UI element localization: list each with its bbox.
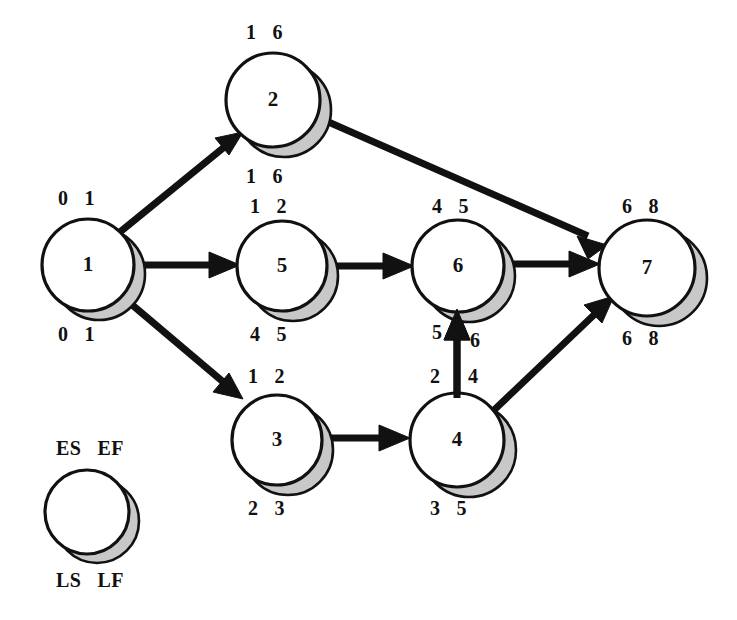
node-6-lf: 6 (470, 330, 481, 350)
node-2-ef: 6 (273, 22, 284, 42)
node-3-late-times: 23 (248, 498, 285, 518)
node-4-ls: 3 (430, 498, 441, 518)
node-5-lf: 5 (277, 324, 288, 344)
node-1-ef: 1 (85, 188, 96, 208)
legend-late-labels: LSLF (56, 570, 124, 590)
node-2[interactable]: 2 (226, 53, 331, 157)
node-5-ls: 4 (250, 324, 261, 344)
node-7[interactable]: 7 (599, 220, 707, 326)
node-7-lf: 8 (649, 328, 660, 348)
legend-es-label: ES (56, 438, 81, 458)
node-1-es: 0 (58, 188, 69, 208)
node-7-ls: 6 (622, 328, 633, 348)
node-5-early-times: 12 (250, 196, 287, 216)
node-4-es: 2 (430, 366, 441, 386)
node-2-lf: 6 (273, 166, 284, 186)
node-5-es: 1 (250, 196, 261, 216)
edge-group (120, 117, 614, 451)
node-1-late-times: 01 (58, 324, 95, 344)
node-5-ef: 2 (277, 196, 288, 216)
node-4-lf: 5 (457, 498, 468, 518)
node-6-ls: 5 (432, 322, 443, 342)
node-2-label: 2 (268, 87, 279, 111)
legend-lf-label: LF (97, 570, 124, 590)
node-2-early-times: 16 (246, 22, 283, 42)
node-4-ef: 4 (468, 366, 479, 386)
node-1-early-times: 01 (58, 188, 95, 208)
edge-4-7 (492, 296, 614, 412)
legend-early-labels: ESEF (56, 438, 124, 458)
node-1[interactable]: 1 (42, 219, 145, 320)
node-1-label: 1 (83, 252, 94, 276)
network-graph: 1 2 5 3 (0, 0, 737, 620)
node-2-ls: 1 (246, 166, 257, 186)
node-7-ef: 8 (649, 196, 660, 216)
node-6-ef: 5 (459, 196, 470, 216)
node-2-late-times: 16 (246, 166, 283, 186)
edge-1-5 (133, 252, 240, 278)
legend-ls-label: LS (56, 570, 81, 590)
node-5[interactable]: 5 (237, 221, 338, 321)
node-1-lf: 1 (85, 324, 96, 344)
node-3[interactable]: 3 (232, 395, 333, 495)
node-7-es: 6 (622, 196, 633, 216)
legend-ef-label: EF (97, 438, 124, 458)
network-diagram-canvas: 1 2 5 3 (0, 0, 737, 620)
node-3-label: 3 (272, 427, 283, 451)
node-5-late-times: 45 (250, 324, 287, 344)
node-3-ls: 2 (248, 498, 259, 518)
node-3-ef: 2 (275, 366, 286, 386)
node-6-es: 4 (432, 196, 443, 216)
node-2-es: 1 (246, 22, 257, 42)
node-6[interactable]: 6 (412, 220, 515, 322)
node-6-label: 6 (453, 253, 464, 277)
node-1-ls: 0 (58, 324, 69, 344)
legend-node (45, 470, 139, 563)
node-7-late-times: 68 (622, 328, 659, 348)
node-3-early-times: 12 (248, 366, 285, 386)
node-3-lf: 3 (275, 498, 286, 518)
edge-1-2 (120, 132, 243, 232)
node-7-label: 7 (642, 255, 653, 279)
edge-1-3 (124, 298, 243, 399)
edge-6-7 (502, 251, 600, 277)
node-4-late-times: 35 (430, 498, 467, 518)
legend-node-circle (45, 470, 129, 554)
node-3-es: 1 (248, 366, 259, 386)
node-5-label: 5 (277, 253, 288, 277)
node-7-early-times: 68 (622, 196, 659, 216)
node-6-early-times: 45 (432, 196, 469, 216)
node-4-label: 4 (452, 427, 463, 451)
